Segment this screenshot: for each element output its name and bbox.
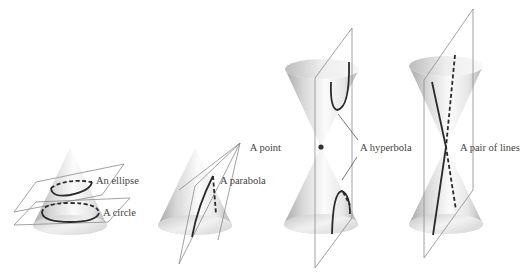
conic-sections-diagram: An ellipse A circle A parabola A point [0,0,528,278]
panel-circle-ellipse: An ellipse A circle [14,148,139,235]
upper-nappe-opening [409,56,483,76]
vertex-point [318,144,323,149]
panel-point-hyperbola: A point A hyperbola [250,28,412,268]
label-parabola: A parabola [220,175,266,186]
panel-pair-of-lines: A pair of lines [409,9,520,258]
label-circle: A circle [103,207,136,218]
lower-nappe-base [284,214,358,234]
hyperbola-leader-lower [342,157,357,180]
label-ellipse: An ellipse [96,175,139,186]
panel-parabola: A parabola [158,143,266,264]
upper-nappe [409,66,483,147]
label-hyperbola: A hyperbola [360,142,412,153]
hyperbola-leader-upper [338,114,358,140]
label-point: A point [250,142,281,153]
label-pair-of-lines: A pair of lines [460,142,520,153]
lower-nappe-base [409,214,483,234]
